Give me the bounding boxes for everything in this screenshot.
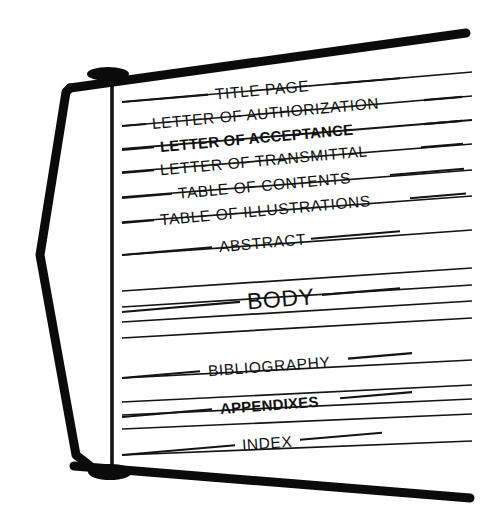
section-label-text: BODY	[246, 283, 315, 314]
bottom-binding-post	[88, 464, 132, 480]
top-binding-post	[87, 67, 129, 81]
diagram-canvas: TITLE PAGELETTER OF AUTHORIZATIONLETTER …	[0, 0, 496, 528]
report-parts-diagram: TITLE PAGELETTER OF AUTHORIZATIONLETTER …	[0, 0, 496, 528]
section-label-text: INDEX	[241, 433, 292, 453]
